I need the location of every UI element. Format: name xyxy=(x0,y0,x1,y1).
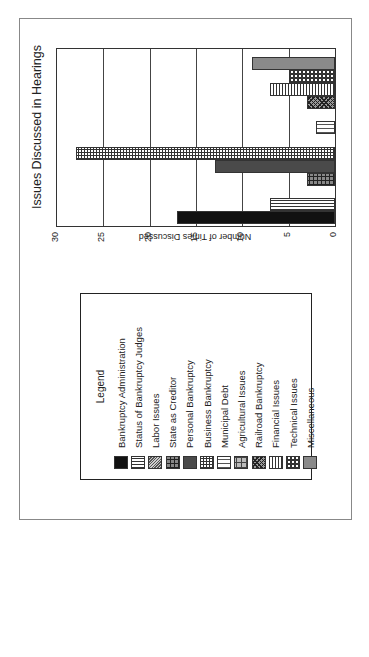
legend-swatch xyxy=(131,456,145,469)
bar-miscellaneous xyxy=(252,57,335,70)
legend-label: Municipal Debt xyxy=(219,385,230,448)
legend-item: Labor Issues xyxy=(147,394,163,469)
legend-label: Bankruptcy Administration xyxy=(116,338,127,448)
plot-area xyxy=(56,48,336,227)
legend-swatch xyxy=(234,456,248,469)
gridline xyxy=(103,49,104,226)
chart-title: Issues Discussed in Hearings xyxy=(30,27,44,227)
bar-municipal-debt xyxy=(316,121,335,134)
legend-box: Legend Bankruptcy AdministrationStatus o… xyxy=(80,293,312,480)
legend-label: Status of Bankruptcy Judges xyxy=(133,327,144,448)
bar-state-as-creditor xyxy=(307,173,335,186)
legend-swatch xyxy=(114,456,128,469)
legend-title: Legend xyxy=(95,294,106,479)
legend-label: Financial Issues xyxy=(270,380,281,448)
gridline xyxy=(150,49,151,226)
legend-swatch xyxy=(148,456,162,469)
bar-railroad-bankruptcy xyxy=(307,96,335,109)
legend-swatch xyxy=(183,456,197,469)
legend-item: Business Bankruptcy xyxy=(199,359,215,469)
legend-item: Technical Issues xyxy=(285,378,301,469)
legend-item: Miscellaneous xyxy=(302,388,318,469)
legend-item: Personal Bankruptcy xyxy=(182,360,198,469)
gridline xyxy=(242,49,243,226)
legend-label: State as Creditor xyxy=(167,377,178,448)
bar-bankruptcy-administration xyxy=(177,211,335,224)
bar-personal-bankruptcy xyxy=(215,160,335,173)
legend-label: Railroad Bankruptcy xyxy=(253,362,264,448)
legend-swatch xyxy=(200,456,214,469)
y-tick-label: 30 xyxy=(50,232,60,252)
legend-swatch xyxy=(252,456,266,469)
legend-item: Railroad Bankruptcy xyxy=(251,362,267,469)
bar-financial-issues xyxy=(270,83,335,96)
y-tick-label: 25 xyxy=(96,232,106,252)
legend-label: Business Bankruptcy xyxy=(202,359,213,448)
legend-swatch xyxy=(217,456,231,469)
legend-label: Agricultural Issues xyxy=(236,370,247,448)
legend-label: Miscellaneous xyxy=(305,388,316,448)
legend-item: Status of Bankruptcy Judges xyxy=(130,327,146,469)
legend-item: Bankruptcy Administration xyxy=(113,338,129,469)
rotated-figure: Issues Discussed in Hearings 05101520253… xyxy=(0,0,369,657)
legend-item: Municipal Debt xyxy=(216,385,232,469)
legend-item: Financial Issues xyxy=(268,380,284,469)
legend-label: Labor Issues xyxy=(150,394,161,448)
y-tick-label: 0 xyxy=(328,232,338,252)
bar-business-bankruptcy xyxy=(76,147,335,160)
gridline xyxy=(196,49,197,226)
legend-item: State as Creditor xyxy=(165,377,181,469)
bar-status-of-bankruptcy-judges xyxy=(270,198,335,211)
y-axis-label: Number of Times Discussed xyxy=(115,232,275,242)
bar-technical-issues xyxy=(289,70,335,83)
legend-label: Personal Bankruptcy xyxy=(184,360,195,448)
legend-swatch xyxy=(269,456,283,469)
legend-swatch xyxy=(166,456,180,469)
legend-swatch xyxy=(303,456,317,469)
legend-swatch xyxy=(286,456,300,469)
y-tick-label: 5 xyxy=(282,232,292,252)
legend-label: Technical Issues xyxy=(288,378,299,448)
legend-item: Agricultural Issues xyxy=(233,370,249,469)
